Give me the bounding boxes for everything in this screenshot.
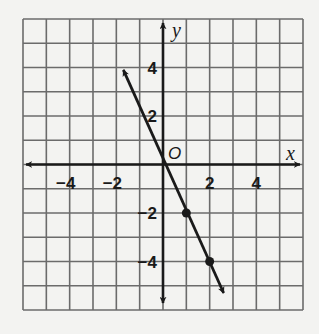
x-tick-label: −4 bbox=[56, 174, 76, 193]
y-tick-label: 2 bbox=[148, 107, 157, 126]
y-tick-label: −4 bbox=[138, 253, 158, 272]
plotted-point bbox=[182, 209, 191, 218]
plotted-point bbox=[205, 257, 214, 266]
x-tick-label: −2 bbox=[103, 174, 122, 193]
x-axis-label: x bbox=[285, 142, 295, 164]
x-tick-label: 2 bbox=[205, 174, 214, 193]
y-tick-label: 4 bbox=[148, 59, 158, 78]
origin-label: O bbox=[168, 144, 181, 163]
y-axis-label: y bbox=[170, 19, 181, 42]
y-tick-label: −2 bbox=[138, 204, 157, 223]
x-tick-label: 4 bbox=[252, 174, 262, 193]
coordinate-plane: −4−22442−2−4 x y O bbox=[0, 0, 319, 334]
